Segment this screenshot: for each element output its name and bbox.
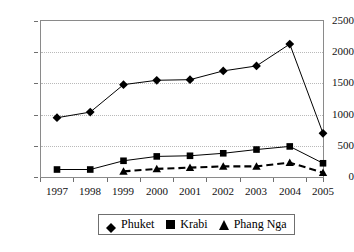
legend-item-phuket: Phuket	[106, 217, 154, 231]
legend-item-phang-nga: Phang Nga	[219, 217, 287, 231]
data-point-marker	[286, 158, 294, 166]
data-point-marker	[219, 67, 228, 76]
data-point-marker	[253, 146, 260, 153]
data-point-marker	[153, 153, 160, 160]
data-point-marker	[152, 76, 161, 85]
legend-label: Phuket	[121, 217, 154, 231]
chart-container: 2500 2000 1500 1000 500 0 1997 1998 1999…	[0, 0, 354, 252]
data-point-marker	[285, 40, 294, 49]
data-point-marker	[186, 75, 195, 84]
triangle-marker-icon	[219, 219, 230, 230]
data-point-marker	[87, 166, 94, 173]
legend-item-krabi: Krabi	[165, 217, 207, 231]
series-line-phuket	[57, 44, 323, 133]
data-point-marker	[187, 152, 194, 159]
data-point-marker	[286, 143, 293, 150]
data-point-marker	[54, 166, 61, 173]
legend-label: Krabi	[180, 217, 207, 231]
data-point-marker	[120, 157, 127, 164]
data-point-marker	[320, 160, 327, 167]
data-point-marker	[53, 113, 62, 122]
square-marker-icon	[165, 219, 176, 230]
diamond-marker-icon	[106, 219, 117, 230]
data-point-marker	[220, 150, 227, 157]
data-point-marker	[252, 62, 261, 71]
legend-label: Phang Nga	[234, 217, 287, 231]
data-point-marker	[319, 129, 328, 138]
chart-legend: Phuket Krabi Phang Nga	[98, 214, 295, 235]
